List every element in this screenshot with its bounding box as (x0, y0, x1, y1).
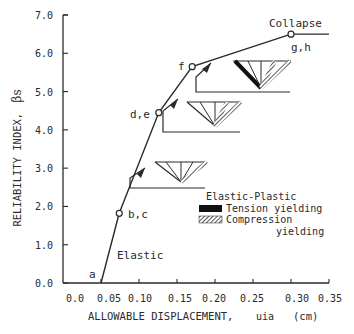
point-label-bc: b,c (128, 208, 148, 221)
y-axis-symbol: βs (10, 89, 24, 102)
x-tick-label: 0.30 (285, 293, 309, 304)
x-tick-label: 0.25 (240, 293, 264, 304)
y-tick-label: 5.0 (35, 87, 53, 98)
x-tick-label: 0.35 (318, 293, 342, 304)
y-tick-label: 0.0 (35, 278, 53, 289)
point-marker (189, 64, 195, 70)
elastic-annotation: Elastic (117, 249, 163, 262)
x-tick-label: 0.15 (168, 293, 192, 304)
legend-compression-label: Compression (226, 214, 292, 225)
truss-diagram-2 (163, 99, 241, 132)
y-tick-label: 2.0 (35, 201, 53, 212)
legend-compression-label-2: yielding (276, 226, 324, 237)
legend-tension-label: Tension yielding (226, 203, 322, 214)
tension-swatch (199, 205, 222, 212)
truss-diagram-3 (196, 61, 291, 92)
x-tick-label: 0.05 (97, 293, 121, 304)
x-axis-symbol: uia (256, 311, 274, 322)
x-axis-label: ALLOWABLE DISPLACEMENT, (88, 310, 233, 322)
y-tick-label: 7.0 (35, 10, 53, 21)
svg-text:RELIABILITY INDEX, βs: RELIABILITY INDEX, βs (10, 89, 24, 226)
y-tick-label: 1.0 (35, 240, 53, 251)
y-axis-label: RELIABILITY INDEX, (11, 113, 23, 227)
collapse-annotation: Collapse (269, 17, 322, 30)
x-tick-label: 0.0 (66, 293, 84, 304)
point-label-a: a (89, 268, 96, 281)
y-tick-label: 3.0 (35, 163, 53, 174)
legend-title: Elastic-Plastic (206, 191, 296, 202)
point-label-de: d,e (130, 108, 150, 121)
reliability-curve (101, 34, 329, 283)
axes: 0.01.02.03.04.05.06.07.0 0.00.050.100.15… (35, 10, 342, 304)
point-marker (156, 110, 162, 116)
x-tick-label: 0.20 (202, 293, 226, 304)
x-tick-label: 0.10 (128, 293, 152, 304)
point-label-gh: g,h (291, 41, 311, 54)
reliability-chart: 0.01.02.03.04.05.06.07.0 0.00.050.100.15… (0, 0, 354, 334)
truss-diagram-1 (130, 162, 207, 188)
x-axis-title: ALLOWABLE DISPLACEMENT, uia (cm) (88, 310, 318, 322)
y-tick-label: 6.0 (35, 48, 53, 59)
compression-swatch (199, 216, 222, 223)
y-axis-title: RELIABILITY INDEX, βs (10, 89, 24, 226)
legend: Elastic-Plastic Tension yielding Compres… (199, 191, 324, 237)
point-label-f: f (178, 60, 185, 73)
x-axis-unit: (cm) (293, 310, 318, 322)
point-marker (116, 210, 122, 216)
y-tick-label: 4.0 (35, 125, 53, 136)
point-marker (288, 31, 294, 37)
